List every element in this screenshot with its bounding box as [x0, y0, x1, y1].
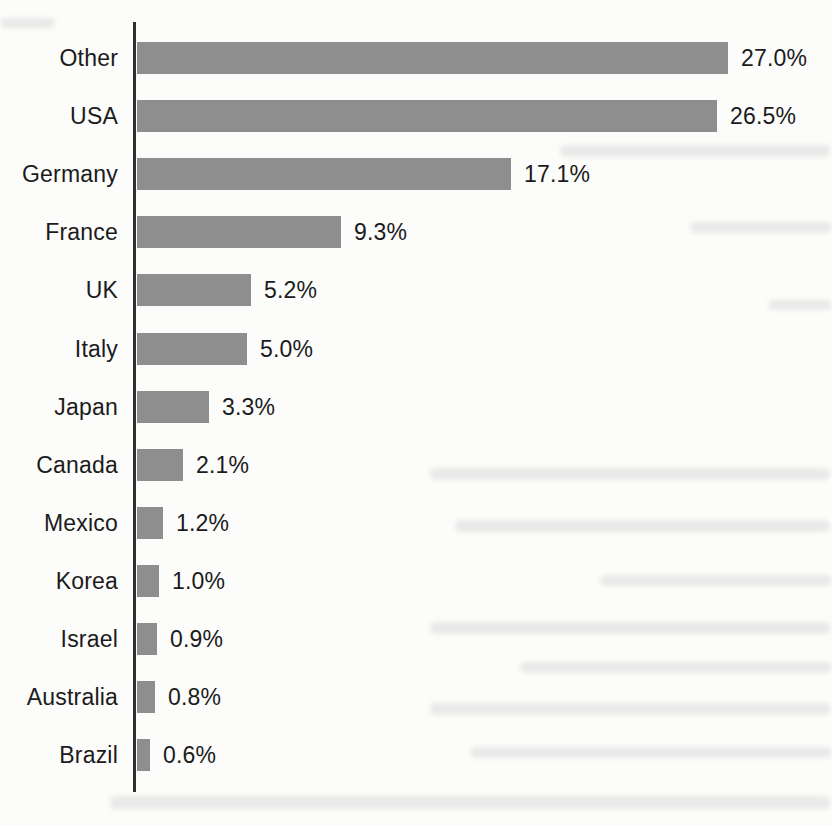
bar — [137, 507, 163, 539]
bar — [137, 391, 209, 423]
category-label: Other — [0, 42, 118, 74]
category-label: Mexico — [0, 507, 118, 539]
bar — [137, 449, 183, 481]
bar — [137, 681, 155, 713]
bar — [137, 216, 341, 248]
bleed-through-artifact — [470, 747, 832, 758]
category-label: Germany — [0, 158, 118, 190]
bleed-through-artifact — [0, 18, 55, 28]
bleed-through-artifact — [430, 468, 830, 480]
value-label: 1.2% — [176, 507, 229, 539]
bar — [137, 100, 717, 132]
bar — [137, 274, 251, 306]
bleed-through-artifact — [520, 662, 832, 673]
value-label: 1.0% — [172, 565, 225, 597]
bar — [137, 739, 150, 771]
bar — [137, 565, 159, 597]
y-axis-line — [133, 22, 136, 792]
bar — [137, 158, 511, 190]
category-label: USA — [0, 100, 118, 132]
scanned-page: Other27.0%USA26.5%Germany17.1%France9.3%… — [0, 0, 832, 826]
value-label: 17.1% — [524, 158, 590, 190]
category-label: Italy — [0, 333, 118, 365]
category-label: France — [0, 216, 118, 248]
bleed-through-artifact — [110, 796, 830, 809]
bar — [137, 42, 728, 74]
bar — [137, 333, 247, 365]
category-label: UK — [0, 274, 118, 306]
bleed-through-artifact — [430, 703, 830, 715]
value-label: 27.0% — [741, 42, 807, 74]
value-label: 26.5% — [730, 100, 796, 132]
category-label: Australia — [0, 681, 118, 713]
bleed-through-artifact — [768, 300, 832, 310]
category-label: Canada — [0, 449, 118, 481]
bleed-through-artifact — [690, 222, 832, 233]
value-label: 5.2% — [264, 274, 317, 306]
value-label: 5.0% — [260, 333, 313, 365]
category-label: Korea — [0, 565, 118, 597]
value-label: 0.9% — [170, 623, 223, 655]
bleed-through-artifact — [600, 575, 832, 586]
bleed-through-artifact — [560, 145, 830, 157]
bleed-through-artifact — [430, 622, 830, 634]
category-label: Japan — [0, 391, 118, 423]
category-label: Israel — [0, 623, 118, 655]
value-label: 0.6% — [163, 739, 216, 771]
category-label: Brazil — [0, 739, 118, 771]
value-label: 9.3% — [354, 216, 407, 248]
bar — [137, 623, 157, 655]
bleed-through-artifact — [455, 520, 830, 532]
value-label: 3.3% — [222, 391, 275, 423]
value-label: 2.1% — [196, 449, 249, 481]
value-label: 0.8% — [168, 681, 221, 713]
